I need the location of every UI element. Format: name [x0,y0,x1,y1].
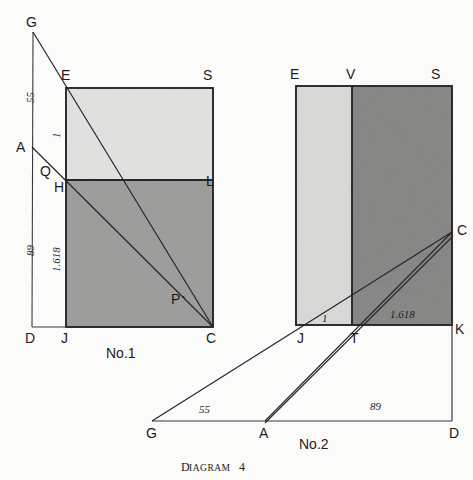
no1-upper-band-grain [66,88,213,180]
no1-vertex-G: G [26,14,37,30]
no1-vertex-S: S [203,67,212,83]
no1-figure-number: No.1 [106,345,136,361]
no1-measure-89: 89 [24,245,36,257]
no2-vertex-G: G [146,425,157,441]
no2-vertex-K: K [455,321,465,337]
no1-measure-1: 1 [50,133,62,139]
no2-measure-89: 89 [370,400,382,412]
no1-vertex-H: H [54,179,64,195]
caption-number: 4 [239,460,246,474]
no1-vertex-D: D [25,330,35,346]
no2-vertex-J: J [297,330,304,346]
diagram-figure-root: G E S A Q H L D J C P 55 1 89 1.618 No.1 [0,0,473,480]
no2-measure-1: 1 [322,312,328,324]
no1-measure-1618: 1.618 [50,247,62,272]
no2-vertex-S: S [431,66,440,82]
no2-vertex-C: C [457,222,467,238]
no2-vertex-D: D [449,425,459,441]
no2-right-panel-grain [352,86,452,325]
no1-measure-55: 55 [24,92,36,104]
diagram-canvas: G E S A Q H L D J C P 55 1 89 1.618 No.1 [0,0,473,480]
no1-vertex-C: C [206,330,216,346]
no1-vertex-A: A [16,139,26,155]
no1-vertex-P: P [171,291,180,307]
no1-vertex-J: J [61,330,68,346]
no2-vertex-A: A [259,425,269,441]
no1-vertex-L: L [206,173,214,189]
no1-vertex-Q: Q [40,163,51,179]
no2-vertex-E: E [290,66,299,82]
no1-vertex-E: E [61,67,70,83]
no2-vertex-T: T [350,330,359,346]
no2-left-panel-grain [296,86,352,325]
no2-vertex-V: V [346,66,356,82]
no2-measure-1618: 1.618 [390,308,415,320]
no2-measure-55: 55 [199,403,211,415]
no2-figure-number: No.2 [299,436,329,452]
caption-word: IAGRAM [189,463,231,473]
